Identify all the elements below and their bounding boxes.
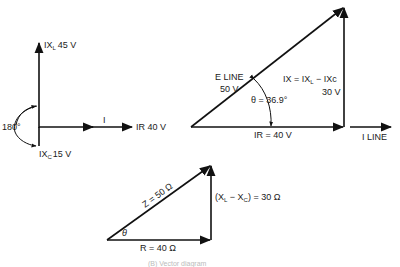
voltage-triangle: E LINE 50 V θ = 36.9° IX = IXL − IXc 30 …	[191, 8, 391, 142]
ir-label: IR = 40 V	[254, 130, 292, 140]
ix-value: 30 V	[322, 87, 341, 97]
r-label: R = 40 Ω	[140, 243, 176, 253]
e-line-value: 50 V	[220, 84, 239, 94]
ixl-label: IXL45 V	[44, 40, 76, 51]
ixc-label: IXC15 V	[39, 149, 71, 160]
current-label: I	[103, 115, 106, 125]
angle-180-label: 180°	[2, 122, 21, 132]
e-line-vector	[191, 8, 343, 127]
figure-caption: (B) Vector diagram	[148, 260, 207, 267]
e-line-label: E LINE	[215, 72, 244, 82]
impedance-triangle: Z = 50 Ω θ R = 40 Ω (XL − XC) = 30 Ω	[107, 166, 281, 253]
x-label: (XL − XC) = 30 Ω	[215, 192, 281, 203]
i-line-label: I LINE	[362, 132, 387, 142]
phasor-diagram: IXL45 V IR 40 V I IXC15 V 180°	[2, 40, 166, 160]
ir-label: IR 40 V	[136, 122, 166, 132]
ix-equation: IX = IXL − IXc	[283, 74, 337, 85]
ac-circuit-vector-diagrams: IXL45 V IR 40 V I IXC15 V 180° E LINE 50…	[0, 0, 400, 267]
theta-label: θ = 36.9°	[251, 95, 288, 105]
theta-label: θ	[122, 228, 127, 238]
